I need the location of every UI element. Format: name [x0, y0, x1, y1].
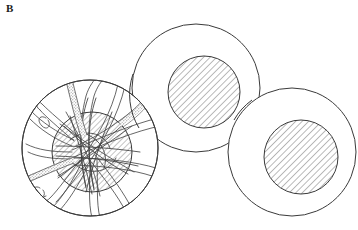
right-cell-nucleus — [264, 120, 338, 194]
middle-cell-nucleus — [168, 56, 240, 128]
right-cell — [228, 88, 356, 216]
figure-panel-b: B — [0, 0, 358, 230]
cell-diagram-svg — [0, 0, 358, 230]
